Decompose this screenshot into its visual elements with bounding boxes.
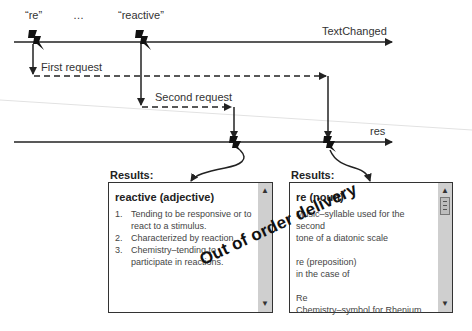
event-bolt-icon [28,30,151,50]
definition-line: re (preposition) [296,256,432,268]
definition-line: Chemistry–symbol for Rhenium [296,304,432,316]
scroll-down-arrow-icon[interactable]: ▼ [258,298,272,310]
event-label-ellipsis: … [73,10,84,21]
scroll-up-arrow-icon[interactable]: ▲ [258,185,272,197]
event-label-re: “re” [25,10,42,21]
scroll-down-arrow-icon[interactable]: ▼ [438,298,452,310]
timeline-label-textchanged: TextChanged [322,26,387,37]
scrollbar[interactable]: ▲ ▼ [438,183,452,312]
event-label-reactive: “reactive” [118,10,164,21]
definition-line: in the case of [296,268,432,280]
definition-line: tone of a diatonic scale [296,232,432,244]
definition-line: Re [296,292,432,304]
second-request-label: Second request [155,92,232,103]
results-heading-right: Results: [291,170,334,181]
scrollbar[interactable]: ▲ ▼ [258,183,272,312]
scroll-up-arrow-icon[interactable]: ▲ [438,185,452,197]
results-heading-left: Results: [110,170,153,181]
scrollbar-thumb[interactable] [440,197,450,215]
timeline-label-res: res [370,126,385,137]
first-request-label: First request [41,62,102,73]
result-title: reactive (adjective) [115,191,252,203]
definition-item: 1.Tending to be responsive or to react t… [115,208,252,232]
